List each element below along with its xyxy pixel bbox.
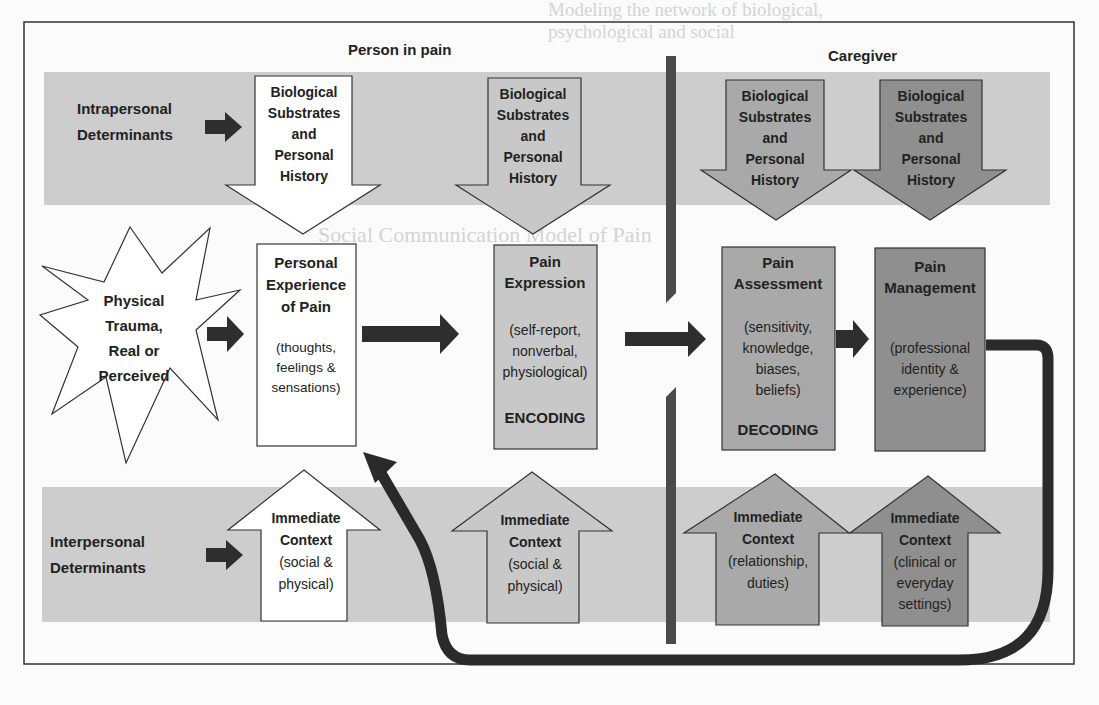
caregiver-heading: Caregiver [828,47,897,64]
svg-text:History: History [751,172,799,188]
svg-text:ENCODING: ENCODING [505,409,586,426]
svg-text:settings): settings) [899,596,952,612]
svg-text:Context: Context [280,532,332,548]
svg-text:Perceived: Perceived [99,367,170,384]
social-communication-model-diagram: Modeling the network of biological, psyc… [0,0,1099,705]
svg-text:nonverbal,: nonverbal, [512,343,577,359]
svg-text:Personal: Personal [745,151,804,167]
svg-text:(clinical or: (clinical or [893,554,956,570]
svg-text:History: History [280,168,328,184]
svg-text:(social &: (social & [279,554,333,570]
svg-text:Personal: Personal [503,149,562,165]
svg-text:Context: Context [509,534,561,550]
svg-text:and: and [292,126,317,142]
svg-text:Real or: Real or [109,342,160,359]
svg-text:Immediate: Immediate [500,512,569,528]
svg-text:Substrates: Substrates [739,109,812,125]
svg-text:beliefs): beliefs) [755,382,800,398]
svg-text:(professional: (professional [890,340,970,356]
svg-text:Pain: Pain [762,254,794,271]
svg-text:Pain: Pain [529,253,561,270]
svg-text:feelings &: feelings & [276,360,335,375]
svg-text:Personal: Personal [274,147,333,163]
svg-text:Determinants: Determinants [77,126,173,143]
svg-text:Management: Management [884,279,976,296]
svg-text:experience): experience) [893,382,966,398]
box-pain-expression: Pain Expression (self-report, nonverbal,… [494,245,597,449]
svg-text:Immediate: Immediate [733,509,802,525]
svg-text:everyday: everyday [897,575,954,591]
svg-text:Biological: Biological [742,88,809,104]
svg-text:Intrapersonal: Intrapersonal [77,100,172,117]
expression-to-assessment-arrow-icon [625,321,706,357]
svg-text:Personal: Personal [274,254,337,271]
svg-text:biases,: biases, [756,361,800,377]
svg-text:psychological and social: psychological and social [548,21,735,42]
svg-text:Experience: Experience [266,276,346,293]
svg-text:physical): physical) [278,576,333,592]
svg-text:Substrates: Substrates [497,107,570,123]
assessment-to-management-arrow-icon [836,320,869,358]
svg-text:duties): duties) [747,575,789,591]
person-in-pain-heading: Person in pain [348,41,451,58]
svg-text:physical): physical) [507,578,562,594]
svg-text:Trauma,: Trauma, [105,317,163,334]
svg-text:and: and [763,130,788,146]
svg-text:History: History [509,170,557,186]
svg-text:(relationship,: (relationship, [728,553,808,569]
svg-text:Assessment: Assessment [734,275,822,292]
trauma-to-experience-arrow-icon [207,316,244,352]
experience-to-expression-arrow-icon [362,314,459,354]
svg-text:(self-report,: (self-report, [509,322,581,338]
svg-text:(thoughts,: (thoughts, [276,340,336,355]
svg-text:Personal: Personal [901,151,960,167]
svg-text:physiological): physiological) [503,364,588,380]
svg-text:Expression: Expression [505,274,586,291]
person-caregiver-divider [666,56,676,644]
svg-text:Determinants: Determinants [50,559,146,576]
svg-text:Pain: Pain [914,258,946,275]
svg-text:and: and [919,130,944,146]
svg-text:Context: Context [742,531,794,547]
svg-text:Social Communication Model of: Social Communication Model of Pain [318,222,652,247]
box-personal-experience: Personal Experience of Pain (thoughts, f… [257,244,356,446]
svg-text:of Pain: of Pain [281,298,331,315]
svg-text:identity &: identity & [901,361,959,377]
physical-trauma-starburst: Physical Trauma, Real or Perceived [40,227,240,463]
box-pain-management: Pain Management (professional identity &… [875,248,985,451]
svg-text:Biological: Biological [500,86,567,102]
svg-text:sensations): sensations) [271,380,340,395]
svg-text:Immediate: Immediate [271,510,340,526]
svg-text:knowledge,: knowledge, [743,340,814,356]
svg-text:Physical: Physical [104,292,165,309]
box-pain-assessment: Pain Assessment (sensitivity, knowledge,… [722,247,835,450]
svg-text:Interpersonal: Interpersonal [50,533,145,550]
svg-text:(sensitivity,: (sensitivity, [744,319,812,335]
svg-text:Biological: Biological [271,84,338,100]
svg-text:Modeling the network of biolog: Modeling the network of biological, [548,0,823,20]
svg-text:and: and [521,128,546,144]
svg-text:Substrates: Substrates [268,105,341,121]
svg-text:Context: Context [899,532,951,548]
svg-text:(social &: (social & [508,556,562,572]
svg-text:Substrates: Substrates [895,109,968,125]
svg-text:DECODING: DECODING [738,421,819,438]
svg-text:History: History [907,172,955,188]
svg-text:Biological: Biological [898,88,965,104]
svg-text:Immediate: Immediate [890,510,959,526]
